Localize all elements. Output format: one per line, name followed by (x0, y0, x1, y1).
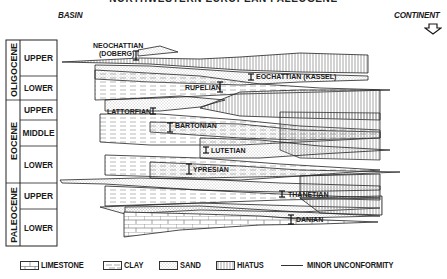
svg-text:EOCHATTIAN (KASSEL): EOCHATTIAN (KASSEL) (256, 73, 336, 81)
lithology-bodies (60, 46, 400, 237)
stage-ypresian: YPRESIAN (186, 164, 229, 174)
legend-hiatus: HIATUS (216, 260, 267, 270)
epoch-oligocene: OLIGOCENE (9, 43, 19, 97)
legend-limestone: LIMESTONE (20, 260, 90, 270)
legend-label: MINOR UNCONFORMITY (307, 260, 394, 270)
stage-eochattian: EOCHATTIAN (KASSEL) (248, 73, 336, 81)
clay-swatch-icon (103, 261, 122, 270)
svg-text:NEOCHATTIAN: NEOCHATTIAN (93, 42, 143, 49)
paleocene-lower: LOWER (24, 223, 53, 233)
legend: LIMESTONE CLAY SAND HIATUS MINOR UNCONFO… (20, 259, 418, 271)
stage-rupelian: RUPELIAN (185, 82, 223, 92)
legend-label: HIATUS (237, 260, 264, 270)
legend-label: LIMESTONE (41, 260, 84, 270)
hiatus-swatch-icon (216, 261, 235, 270)
legend-sand: SAND (159, 260, 204, 270)
stage-neochattian: NEOCHATTIAN (DOBERG) (93, 42, 143, 60)
sand-swatch-icon (159, 261, 178, 270)
unconformity-line-icon (281, 265, 303, 266)
svg-text:LATTORFIAN: LATTORFIAN (107, 108, 151, 115)
stratigraphy-diagram: OLIGOCENE EOCENE PALEOCENE UPPER LOWER U… (0, 0, 447, 279)
eocene-middle: MIDDLE (23, 128, 55, 138)
svg-text:RUPELIAN: RUPELIAN (185, 84, 221, 91)
svg-text:DANIAN: DANIAN (296, 216, 323, 223)
limestone-swatch-icon (20, 261, 39, 270)
oligocene-upper: UPPER (24, 53, 53, 63)
stratigraphic-column: OLIGOCENE EOCENE PALEOCENE UPPER LOWER U… (6, 40, 57, 246)
svg-text:LUTETIAN: LUTETIAN (211, 147, 246, 154)
paleocene-upper: UPPER (24, 191, 53, 201)
eocene-upper: UPPER (24, 105, 53, 115)
stage-lattorfian: LATTORFIAN (107, 108, 156, 115)
legend-label: CLAY (124, 260, 143, 270)
svg-text:(DOBERG): (DOBERG) (99, 50, 134, 58)
svg-text:THANETIAN: THANETIAN (288, 191, 328, 198)
oligocene-lower: LOWER (24, 83, 53, 93)
eocene-lower: LOWER (24, 160, 53, 170)
epoch-eocene: EOCENE (9, 122, 19, 160)
svg-text:YPRESIAN: YPRESIAN (193, 166, 229, 173)
legend-label: SAND (180, 260, 201, 270)
svg-text:BARTONIAN: BARTONIAN (175, 122, 217, 129)
legend-minor-unconformity: MINOR UNCONFORMITY (281, 260, 405, 270)
epoch-paleocene: PALEOCENE (9, 187, 19, 242)
legend-clay: CLAY (103, 260, 146, 270)
